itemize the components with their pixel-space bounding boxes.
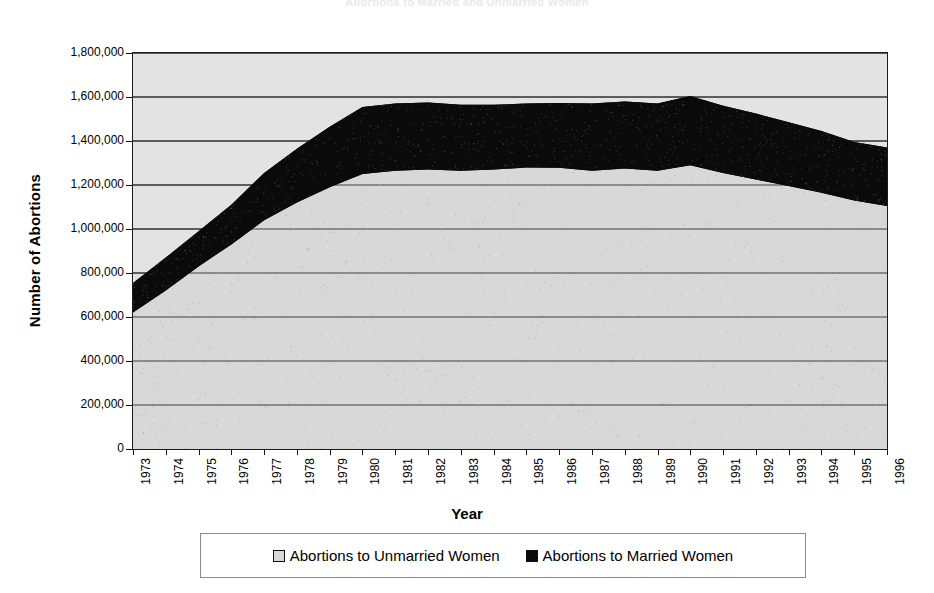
x-tick-mark [199,450,200,455]
y-tick-label: 1,200,000 [14,177,124,191]
x-tick-label: 1974 [172,458,186,504]
x-tick-label: 1996 [893,458,907,504]
x-tick-mark [592,450,593,455]
y-tick-label: 0 [14,441,124,455]
x-tick-mark [723,450,724,455]
chart-canvas: Abortions to Married and Unmarried Women… [0,0,934,593]
x-tick-label: 1987 [598,458,612,504]
legend-swatch-unmarried-icon [273,550,285,562]
x-tick-mark [231,450,232,455]
y-tick-label: 400,000 [14,353,124,367]
x-tick-label: 1982 [434,458,448,504]
legend-label-unmarried: Abortions to Unmarried Women [290,547,500,564]
x-tick-label: 1977 [270,458,284,504]
x-tick-label: 1973 [139,458,153,504]
x-tick-mark [428,450,429,455]
x-axis-title: Year [0,505,934,522]
x-tick-label: 1986 [565,458,579,504]
y-tick-label: 800,000 [14,265,124,279]
x-tick-label: 1983 [467,458,481,504]
y-tick-label: 600,000 [14,309,124,323]
plot-area [132,52,888,450]
x-tick-mark [330,450,331,455]
stacked-area-series [133,53,887,449]
x-tick-mark [625,450,626,455]
y-tick-label: 200,000 [14,397,124,411]
x-tick-label: 1994 [827,458,841,504]
x-tick-label: 1984 [500,458,514,504]
x-tick-mark [658,450,659,455]
x-tick-mark [395,450,396,455]
x-tick-mark [756,450,757,455]
x-tick-label: 1993 [795,458,809,504]
x-tick-mark [494,450,495,455]
x-tick-mark [297,450,298,455]
chart-legend: Abortions to Unmarried Women Abortions t… [200,533,806,578]
legend-item-married: Abortions to Married Women [526,547,734,564]
x-tick-label: 1975 [205,458,219,504]
x-tick-mark [264,450,265,455]
y-tick-label: 1,600,000 [14,89,124,103]
legend-item-unmarried: Abortions to Unmarried Women [273,547,500,564]
x-tick-mark [887,450,888,455]
x-tick-label: 1991 [729,458,743,504]
legend-swatch-married-icon [526,550,538,562]
x-tick-mark [362,450,363,455]
x-tick-mark [854,450,855,455]
faded-top-title: Abortions to Married and Unmarried Women [0,0,934,8]
x-tick-label: 1995 [860,458,874,504]
x-tick-label: 1981 [401,458,415,504]
x-tick-label: 1979 [336,458,350,504]
x-tick-label: 1978 [303,458,317,504]
y-tick-label: 1,800,000 [14,45,124,59]
x-tick-label: 1992 [762,458,776,504]
x-tick-mark [690,450,691,455]
x-tick-mark [559,450,560,455]
x-tick-mark [526,450,527,455]
y-tick-label: 1,000,000 [14,221,124,235]
x-tick-mark [461,450,462,455]
x-tick-label: 1985 [532,458,546,504]
x-tick-label: 1990 [696,458,710,504]
x-tick-label: 1989 [664,458,678,504]
x-tick-label: 1976 [237,458,251,504]
legend-label-married: Abortions to Married Women [543,547,734,564]
x-tick-mark [821,450,822,455]
y-tick-label: 1,400,000 [14,133,124,147]
x-tick-label: 1980 [368,458,382,504]
x-tick-mark [789,450,790,455]
y-axis-title: Number of Abortions [26,131,43,371]
x-tick-label: 1988 [631,458,645,504]
x-tick-mark [133,450,134,455]
x-tick-mark [166,450,167,455]
